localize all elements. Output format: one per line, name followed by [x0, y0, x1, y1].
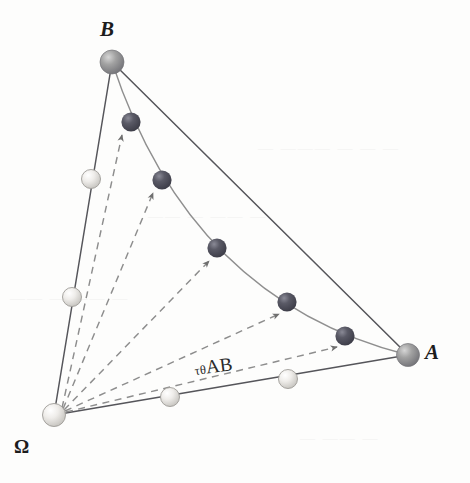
dark-sphere-node: [152, 170, 171, 189]
vertex-node-a: [397, 344, 420, 367]
light-sphere-node: [161, 388, 180, 407]
figure-canvas: — ——— — — — —— — —— — —— — —— — — —— —: [0, 0, 470, 483]
vertex-label-omega: Ω: [14, 437, 30, 456]
light-sphere-node: [63, 288, 82, 307]
vertex-node-omega: [43, 404, 66, 427]
dark-sphere-node: [335, 326, 354, 345]
geodesic-curve-nodes: [121, 112, 354, 345]
edge-omega-b-nodes: [63, 170, 101, 307]
edge-chord-ba: [112, 62, 408, 355]
light-sphere-node: [82, 170, 101, 189]
transport-args-text: AB: [204, 353, 234, 377]
dark-sphere-node: [121, 112, 140, 131]
dark-sphere-node: [277, 292, 296, 311]
vertex-node-b: [100, 50, 124, 74]
transport-arrow: [64, 261, 209, 410]
diagram-svg: [0, 0, 470, 483]
dark-sphere-node: [207, 238, 226, 257]
vertex-label-b: B: [100, 19, 114, 40]
light-sphere-node: [279, 370, 298, 389]
vertex-label-a: A: [425, 342, 439, 363]
